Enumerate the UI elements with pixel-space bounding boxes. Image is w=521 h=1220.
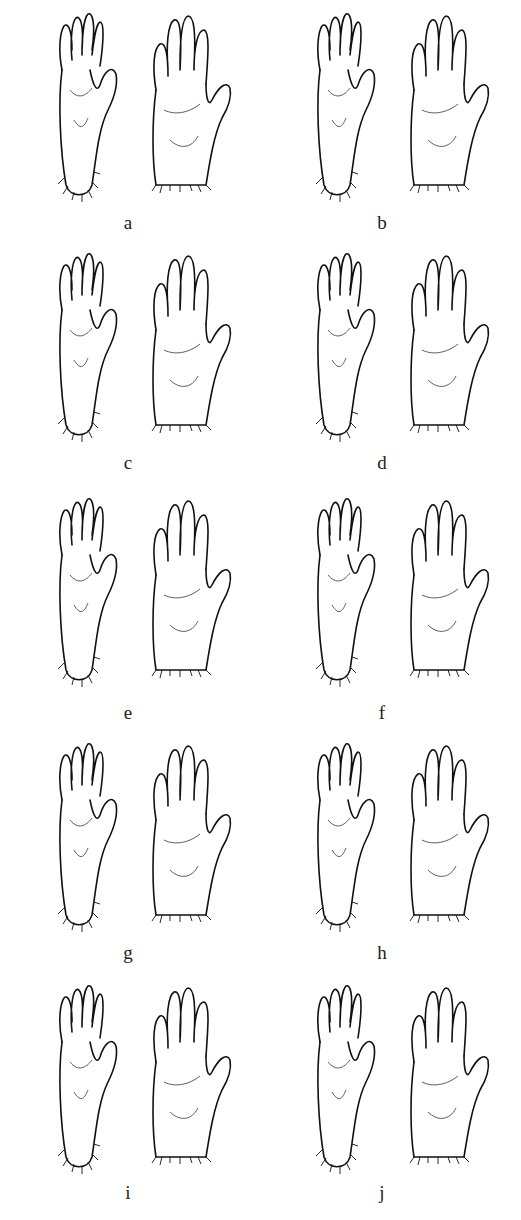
panel-h: h bbox=[258, 730, 518, 970]
hand-drawing bbox=[152, 746, 231, 923]
foot-drawing bbox=[316, 744, 375, 932]
foot-drawing bbox=[316, 14, 375, 202]
foot-and-hand-drawing bbox=[258, 0, 518, 240]
hand-drawing bbox=[410, 256, 489, 433]
panel-label: f bbox=[372, 702, 392, 724]
foot-and-hand-drawing bbox=[0, 240, 260, 480]
panel-f: f bbox=[258, 485, 518, 725]
hand-drawing bbox=[410, 746, 489, 923]
hand-drawing bbox=[152, 988, 231, 1165]
foot-and-hand-drawing bbox=[0, 0, 260, 240]
hand-drawing bbox=[152, 256, 231, 433]
panel-label: h bbox=[372, 942, 392, 964]
panel-label: g bbox=[118, 942, 138, 964]
panel-label: i bbox=[118, 1182, 138, 1204]
foot-and-hand-drawing bbox=[258, 485, 518, 725]
hand-drawing bbox=[410, 16, 489, 193]
panel-label: a bbox=[118, 212, 138, 234]
hand-drawing bbox=[152, 16, 231, 193]
panel-label: c bbox=[118, 452, 138, 474]
hand-drawing bbox=[410, 988, 489, 1165]
panel-label: j bbox=[372, 1182, 392, 1204]
panel-label: d bbox=[372, 452, 392, 474]
foot-and-hand-drawing bbox=[0, 972, 260, 1212]
foot-drawing bbox=[316, 254, 375, 442]
foot-and-hand-drawing bbox=[258, 730, 518, 970]
panel-c: c bbox=[0, 240, 260, 480]
hand-drawing bbox=[152, 501, 231, 678]
foot-drawing bbox=[58, 499, 117, 687]
foot-drawing bbox=[58, 744, 117, 932]
foot-drawing bbox=[58, 254, 117, 442]
panel-a: a bbox=[0, 0, 260, 240]
panel-b: b bbox=[258, 0, 518, 240]
panel-e: e bbox=[0, 485, 260, 725]
foot-and-hand-drawing bbox=[0, 485, 260, 725]
foot-and-hand-drawing bbox=[258, 240, 518, 480]
hand-drawing bbox=[410, 501, 489, 678]
panel-j: j bbox=[258, 972, 518, 1212]
panel-d: d bbox=[258, 240, 518, 480]
foot-and-hand-drawing bbox=[0, 730, 260, 970]
foot-drawing bbox=[316, 499, 375, 687]
panel-i: i bbox=[0, 972, 260, 1212]
panel-label: e bbox=[118, 702, 138, 724]
foot-drawing bbox=[58, 986, 117, 1174]
foot-drawing bbox=[316, 986, 375, 1174]
panel-label: b bbox=[372, 212, 392, 234]
foot-drawing bbox=[58, 14, 117, 202]
foot-and-hand-drawing bbox=[258, 972, 518, 1212]
panel-g: g bbox=[0, 730, 260, 970]
